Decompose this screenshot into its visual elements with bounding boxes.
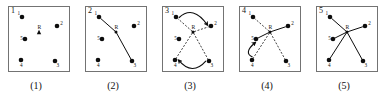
target-node-2 [363, 24, 368, 29]
panel-3: R123453(3) [154, 0, 226, 103]
edge-R-to-3 [348, 33, 362, 59]
robot-marker-dot [115, 31, 118, 34]
panel-index-label: 5 [319, 6, 323, 15]
panel-4: R123454(4) [231, 0, 303, 103]
target-label-2: 2 [368, 20, 371, 26]
edge-1-to-R [101, 19, 115, 32]
target-label-1: 1 [326, 10, 329, 16]
target-node-1 [251, 15, 256, 20]
robot-marker-dot [346, 31, 349, 34]
target-label-2: 2 [60, 20, 63, 26]
target-node-1 [328, 15, 333, 20]
target-node-5 [100, 37, 105, 42]
robot-label: R [192, 24, 196, 30]
panel-caption: (5) [308, 80, 380, 92]
panel-index-label: 2 [88, 6, 92, 15]
target-label-5: 5 [251, 35, 254, 41]
panel-caption: (3) [154, 80, 226, 92]
robot-marker-dot [192, 31, 195, 34]
figure-panel-series: R123451(1)R123452(2)R123453(3)R123454(4)… [0, 0, 380, 103]
panel-graphic: R12345 [85, 6, 147, 72]
panel-graphic: R12345 [316, 6, 378, 72]
edge-R-to-2 [348, 27, 363, 32]
target-node-5 [331, 37, 336, 42]
target-label-5: 5 [20, 35, 23, 41]
target-node-1 [174, 15, 179, 20]
edge-R-to-3 [194, 33, 208, 59]
target-label-1: 1 [172, 10, 175, 16]
target-node-2 [209, 24, 214, 29]
target-node-5 [23, 37, 28, 42]
robot-marker-dot [269, 31, 272, 34]
arc-3-to-4 [179, 60, 206, 68]
target-node-5 [177, 37, 182, 42]
panel-index-label: 4 [242, 6, 246, 15]
target-label-5: 5 [174, 35, 177, 41]
panel-graphic: R12345 [8, 6, 70, 72]
edge-R-to-5 [258, 33, 269, 38]
arc-4-to-5 [248, 43, 255, 58]
panel-row: R123451(1)R123452(2)R123453(3)R123454(4)… [0, 0, 380, 103]
target-label-4: 4 [328, 62, 331, 68]
panel-caption: (2) [77, 80, 149, 92]
target-label-1: 1 [18, 10, 21, 16]
target-node-2 [55, 24, 60, 29]
target-label-3: 3 [365, 62, 368, 68]
panel-caption: (1) [0, 80, 72, 92]
target-label-4: 4 [251, 62, 254, 68]
target-label-2: 2 [291, 20, 294, 26]
robot-label: R [269, 24, 273, 30]
panel-5: R123455(5) [308, 0, 380, 103]
target-node-2 [286, 24, 291, 29]
panel-graphic: R12345 [162, 6, 224, 72]
robot-label: R [115, 24, 119, 30]
target-label-3: 3 [288, 62, 291, 68]
edge-R-to-1 [255, 19, 269, 32]
panel-2: R123452(2) [77, 0, 149, 103]
target-label-1: 1 [95, 10, 98, 16]
target-node-2 [132, 24, 137, 29]
edge-R-to-2 [271, 27, 286, 32]
robot-label: R [38, 24, 42, 30]
panel-1: R123451(1) [0, 0, 72, 103]
target-label-3: 3 [57, 62, 60, 68]
panel-index-label: 1 [11, 6, 15, 15]
target-label-4: 4 [174, 62, 177, 68]
edge-R-to-1 [332, 19, 346, 32]
target-node-1 [20, 15, 25, 20]
target-label-2: 2 [137, 20, 140, 26]
panel-caption: (4) [231, 80, 303, 92]
target-label-4: 4 [97, 62, 100, 68]
target-label-3: 3 [211, 62, 214, 68]
target-node-5 [254, 37, 259, 42]
panel-index-label: 3 [165, 6, 169, 15]
robot-marker-triangle [37, 30, 41, 34]
edge-R-to-3 [271, 33, 285, 59]
target-label-2: 2 [214, 20, 217, 26]
target-label-3: 3 [134, 62, 137, 68]
target-label-5: 5 [97, 35, 100, 41]
robot-label: R [346, 24, 350, 30]
target-label-5: 5 [328, 35, 331, 41]
target-label-4: 4 [20, 62, 23, 68]
edge-R-to-5 [335, 33, 346, 38]
target-label-1: 1 [249, 10, 252, 16]
edge-R-to-1 [178, 19, 192, 32]
panel-graphic: R12345 [239, 6, 301, 72]
edge-R-to-3 [117, 33, 131, 59]
target-node-1 [97, 15, 102, 20]
edge-R-to-2 [194, 27, 209, 32]
